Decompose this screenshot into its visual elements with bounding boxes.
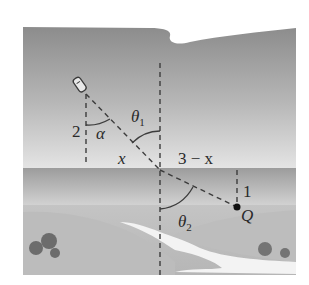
segment-x-label: x [118,150,126,167]
theta1-label: θ1 [131,108,145,125]
segment-3-minus-x-label: 3 − x [178,150,213,167]
theta1-subscript: 1 [139,116,145,128]
theta2-label: θ2 [178,213,192,230]
point-Q-label: Q [241,207,253,224]
side-length-2-label: 2 [72,123,81,140]
diagram-canvas [0,0,309,285]
diagram: 2 α θ1 x 3 − x 1 θ2 Q [0,0,309,285]
side-length-1-label: 1 [243,183,252,200]
point-Q-marker [234,204,241,211]
theta2-subscript: 2 [186,221,192,233]
alpha-label: α [96,125,105,142]
